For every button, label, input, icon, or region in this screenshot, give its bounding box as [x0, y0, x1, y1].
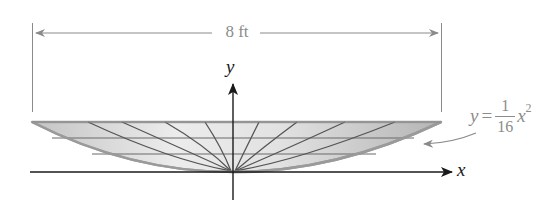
- fraction-bar: [495, 116, 515, 117]
- equation-lhs: y: [470, 105, 478, 127]
- equation-pointer-arrow: [424, 133, 476, 144]
- equation-exponent: 2: [526, 101, 532, 116]
- dimension-label: 8 ft: [214, 22, 260, 42]
- equation-variable: x: [517, 105, 525, 127]
- equation-equals: =: [481, 105, 492, 127]
- equation-label: y = 1 16 x 2: [470, 96, 532, 136]
- parabolic-dish-diagram: 8 ft y x y = 1 16 x 2: [0, 0, 560, 206]
- x-axis-label: x: [457, 159, 465, 181]
- equation-fraction: 1 16: [495, 98, 515, 135]
- parabolic-dish: [32, 122, 441, 172]
- equation-denominator: 16: [495, 119, 515, 135]
- equation-numerator: 1: [499, 98, 511, 114]
- y-axis-label: y: [226, 56, 234, 78]
